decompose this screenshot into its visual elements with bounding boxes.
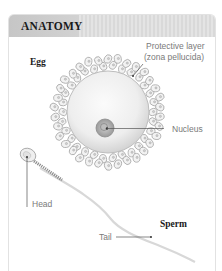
sperm-label: Sperm [160, 219, 187, 229]
sperm-tail [40, 168, 195, 262]
tail-label: Tail [99, 232, 112, 242]
protective-layer-label-line2: (zona pellucida) [144, 52, 204, 62]
egg-cell [67, 71, 149, 153]
egg-label: Egg [30, 57, 46, 67]
head-label: Head [32, 199, 52, 209]
nucleus-label: Nucleus [172, 124, 203, 134]
protective-layer-label-line1: Protective layer [146, 41, 205, 51]
